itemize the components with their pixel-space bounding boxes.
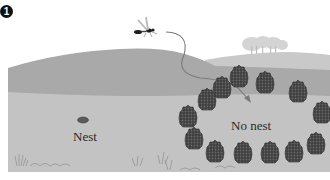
diagram-scene: 1 Nest No nest — [0, 0, 330, 180]
panel-number-badge: 1 — [0, 5, 13, 18]
nest-icon — [78, 117, 89, 123]
ground — [8, 92, 330, 180]
no-nest-label: No nest — [231, 119, 271, 132]
nest-label: Nest — [73, 130, 97, 143]
landscape-illustration — [0, 0, 330, 180]
